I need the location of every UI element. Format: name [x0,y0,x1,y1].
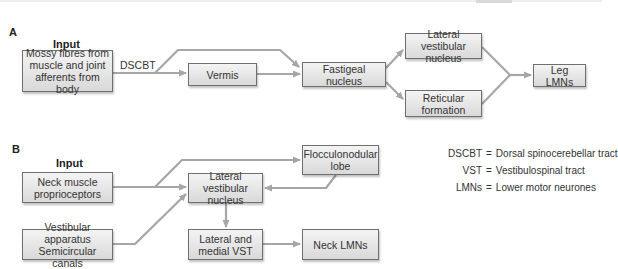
box-lateral-medial-vst: Lateral and medial VST [188,229,263,260]
box-reticular-formation: Reticular formation [405,90,482,117]
arrow-fastigeal-to-lateral-vestibular [386,50,403,68]
box-neck-muscle-proprioceptors: Neck muscle proprioceptors [22,172,113,203]
legend-row-vst: VST = Vestibulospinal tract [430,162,618,179]
legend-abbr: LMNs [430,179,482,196]
box-fastigeal-nucleus: Fastigeal nucleus [302,62,386,87]
legend-abbr: VST [430,162,482,179]
line-reticular-to-merge [482,75,510,104]
line-lateral-vestibular-to-merge [482,47,510,75]
legend-meaning: Lower motor neurones [496,179,596,196]
arrow-flocculonodular-to-lateral-vestibular [265,175,336,188]
box-lateral-vestibular-nucleus-b: Lateral vestibular nucleus [188,173,263,203]
legend-equals: = [486,145,492,162]
legend-meaning: Vestibulospinal tract [496,162,585,179]
legend-row-dscbt: DSCBT = Dorsal spinocerebellar tract [430,145,618,162]
panel-b-input-label: Input [56,157,83,169]
legend-equals: = [486,162,492,179]
legend-equals: = [486,179,492,196]
box-mossy-fibres: Mossy fibres from muscle and joint affer… [22,50,113,92]
box-vermis: Vermis [188,63,257,86]
box-vestibular-apparatus: Vestibular apparatus Semicircular canals [22,229,113,260]
box-flocculonodular-lobe: Flocculonodular lobe [302,145,379,175]
abbreviation-legend: DSCBT = Dorsal spinocerebellar tract VST… [430,145,618,196]
arrow-fastigeal-to-reticular [386,82,403,99]
box-leg-lmns: Leg LMNs [533,64,586,87]
panel-a-label: A [9,26,17,38]
arrow-vestibular-apparatus-to-lateral-vestibular [113,194,186,244]
panel-b-label: B [12,143,20,155]
legend-abbr: DSCBT [430,145,482,162]
legend-meaning: Dorsal spinocerebellar tract [496,145,618,162]
box-neck-lmns: Neck LMNs [302,229,379,260]
dscbt-edge-label: DSCBT [120,59,156,71]
legend-row-lmns: LMNs = Lower motor neurones [430,179,618,196]
box-lateral-vestibular-nucleus-a: Lateral vestibular nucleus [405,33,482,59]
